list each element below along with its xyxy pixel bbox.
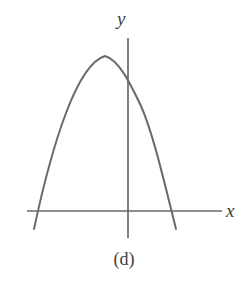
x-axis-label: x: [226, 201, 234, 220]
figure-container: y x (d): [0, 0, 248, 293]
figure-caption: (d): [0, 250, 248, 268]
y-axis-label: y: [117, 9, 125, 28]
parabola-curve: [34, 56, 176, 229]
